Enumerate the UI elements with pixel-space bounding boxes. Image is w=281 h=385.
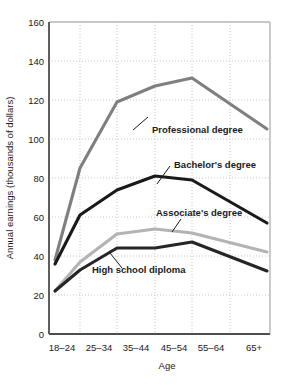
- y-tick-20: 20: [33, 290, 44, 301]
- x-tick-labels: 18–24 25–34 35–44 45–54 55–64 65+: [49, 342, 263, 353]
- y-tick-40: 40: [33, 251, 44, 262]
- y-tick-80: 80: [33, 173, 44, 184]
- y-tick-0: 0: [39, 329, 44, 340]
- annotation-high-school-diploma: High school diploma: [92, 264, 186, 275]
- y-tick-120: 120: [28, 95, 44, 106]
- x-axis-title: Age: [159, 360, 176, 371]
- x-tick-45-54: 45–54: [161, 342, 187, 353]
- chart-figure: Professional degree Bachelor's degree As…: [0, 0, 281, 385]
- annotation-bachelors-degree: Bachelor's degree: [174, 159, 256, 170]
- x-tick-65-plus: 65+: [246, 342, 263, 353]
- annotation-professional-degree: Professional degree: [152, 124, 243, 135]
- x-tick-18-24: 18–24: [49, 342, 75, 353]
- y-tick-labels: 160 140 120 100 80 60 40 20 0: [28, 17, 44, 340]
- x-tick-25-34: 25–34: [86, 342, 112, 353]
- y-axis-title: Annual earnings (thousands of dollars): [4, 97, 15, 260]
- x-tick-35-44: 35–44: [123, 342, 149, 353]
- line-chart-svg: Professional degree Bachelor's degree As…: [0, 0, 281, 385]
- y-tick-60: 60: [33, 212, 44, 223]
- y-tick-100: 100: [28, 134, 44, 145]
- y-tick-160: 160: [28, 17, 44, 28]
- annotation-associates-degree: Associate's degree: [156, 207, 242, 218]
- y-tick-140: 140: [28, 56, 44, 67]
- x-tick-55-64: 55–64: [198, 342, 224, 353]
